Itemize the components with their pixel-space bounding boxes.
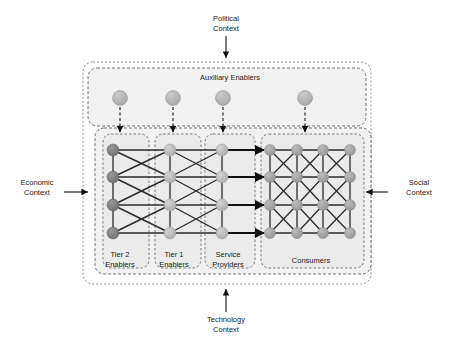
auxiliary-node — [113, 91, 128, 106]
consumer-node — [292, 145, 303, 156]
tier2-node — [107, 227, 119, 239]
social-context-label: Social Context — [390, 178, 448, 197]
consumer-node — [345, 200, 356, 211]
tier1-node — [164, 227, 176, 239]
auxiliary-node — [166, 91, 181, 106]
tier2-node — [107, 144, 119, 156]
tier2-node — [107, 171, 119, 183]
consumer-node — [292, 228, 303, 239]
consumer-node — [345, 172, 356, 183]
auxiliary-node — [298, 91, 313, 106]
consumer-node — [318, 228, 329, 239]
diagram-canvas: Political Context Economic Context Socia… — [0, 0, 452, 343]
consumer-node — [265, 200, 276, 211]
service-provider-node — [216, 227, 228, 239]
consumer-node — [265, 172, 276, 183]
service-provider-node — [216, 199, 228, 211]
consumer-node — [292, 200, 303, 211]
tier2-node — [107, 199, 119, 211]
zone-service-providers — [205, 134, 255, 268]
tier1-enablers-label: Tier 1 Enablers — [150, 250, 198, 269]
consumer-node — [318, 200, 329, 211]
auxiliary-enablers-label: Auxiliary Enablers — [170, 73, 290, 83]
tier1-node — [164, 144, 176, 156]
economic-context-label: Economic Context — [6, 178, 68, 197]
consumer-node — [265, 145, 276, 156]
consumer-node — [265, 228, 276, 239]
consumer-node — [318, 145, 329, 156]
tier1-node — [164, 199, 176, 211]
consumer-node — [292, 172, 303, 183]
auxiliary-node — [216, 91, 231, 106]
political-context-label: Political Context — [186, 14, 266, 33]
ecosystem-network-diagram — [0, 0, 452, 343]
tier1-node — [164, 171, 176, 183]
consumer-node — [345, 145, 356, 156]
technology-context-label: Technology Context — [186, 315, 266, 334]
consumer-node — [345, 228, 356, 239]
consumers-label: Consumers — [262, 256, 360, 266]
consumer-node — [318, 172, 329, 183]
service-providers-label: Service Providers — [202, 250, 254, 269]
service-provider-node — [216, 144, 228, 156]
service-provider-node — [216, 171, 228, 183]
tier2-enablers-label: Tier 2 Enablers — [96, 250, 144, 269]
